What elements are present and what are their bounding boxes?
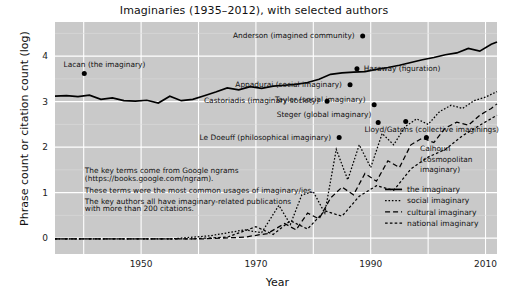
y-tick-0: 0 xyxy=(42,233,48,243)
y-tick-3: 3 xyxy=(42,97,48,107)
annotation-point-le-doeuff xyxy=(337,135,342,140)
legend-label-national-imaginary[interactable]: national imaginary xyxy=(407,219,479,228)
annotation-label-lacan: Lacan (the imaginary) xyxy=(64,60,146,69)
annotation-point-appadurai xyxy=(348,82,353,87)
annotation-point-haraway xyxy=(354,66,359,71)
note-line-5: with more than 200 citations. xyxy=(85,204,194,213)
annotation-point-castoriadis xyxy=(325,99,330,104)
chart-plot-area: Anderson (imagined community)Lacan (the … xyxy=(0,0,508,294)
annotation-label-calhoun-line2: (cosmopolitan xyxy=(420,155,473,164)
legend-label-the-imaginary[interactable]: the imaginary xyxy=(407,185,461,194)
note-line-3: These terms were the most common usages … xyxy=(84,186,314,195)
annotation-label-haraway: Haraway (figuration) xyxy=(364,64,441,73)
annotation-point-calhoun xyxy=(424,135,429,140)
x-tick-1950: 1950 xyxy=(130,259,153,269)
y-tick-1: 1 xyxy=(42,188,48,198)
annotation-label-calhoun: Calhoun xyxy=(420,144,451,153)
annotation-label-lloyd-gatens: Lloyd/Gatens (collective imaginings) xyxy=(364,125,499,134)
x-tick-2010: 2010 xyxy=(474,259,497,269)
annotation-point-anderson xyxy=(360,34,365,39)
note-line-2: (https://books.google.com/ngram). xyxy=(85,174,214,183)
x-tick-1990: 1990 xyxy=(359,259,382,269)
y-tick-4: 4 xyxy=(42,51,48,61)
annotation-point-lacan xyxy=(82,71,87,76)
y-tick-2: 2 xyxy=(42,142,48,152)
annotation-point-lloyd-gatens xyxy=(403,119,408,124)
annotation-label-castoriadis: Castoriadis (imaginary society) xyxy=(204,96,319,105)
annotation-label-calhoun-line3: imaginary) xyxy=(420,165,460,174)
chart-figure: Imaginaries (1935–2012), with selected a… xyxy=(0,0,508,294)
legend-label-cultural-imaginary[interactable]: cultural imaginary xyxy=(407,208,477,217)
annotation-label-le-doeuff: Le Doeuff (philosophical imaginary) xyxy=(200,133,332,142)
annotation-point-taylor xyxy=(372,102,377,107)
x-tick-1970: 1970 xyxy=(244,259,267,269)
annotation-label-steger: Steger (global imaginary) xyxy=(277,110,372,119)
annotation-label-appadurai: Appadurai (social imaginary) xyxy=(235,80,342,89)
legend-label-social-imaginary[interactable]: social imaginary xyxy=(407,196,470,205)
annotation-label-anderson: Anderson (imagined community) xyxy=(233,31,355,40)
